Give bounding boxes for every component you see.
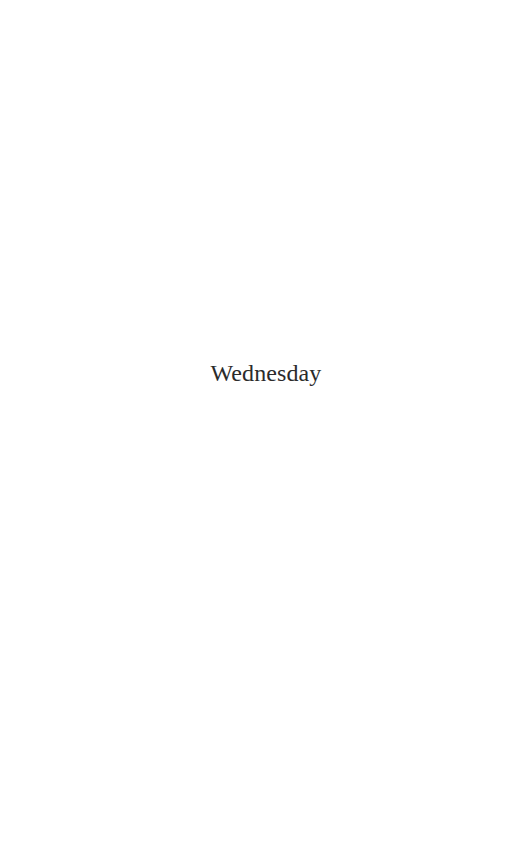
section-title: Wednesday (0, 356, 532, 390)
book-page: Wednesday (0, 0, 532, 863)
